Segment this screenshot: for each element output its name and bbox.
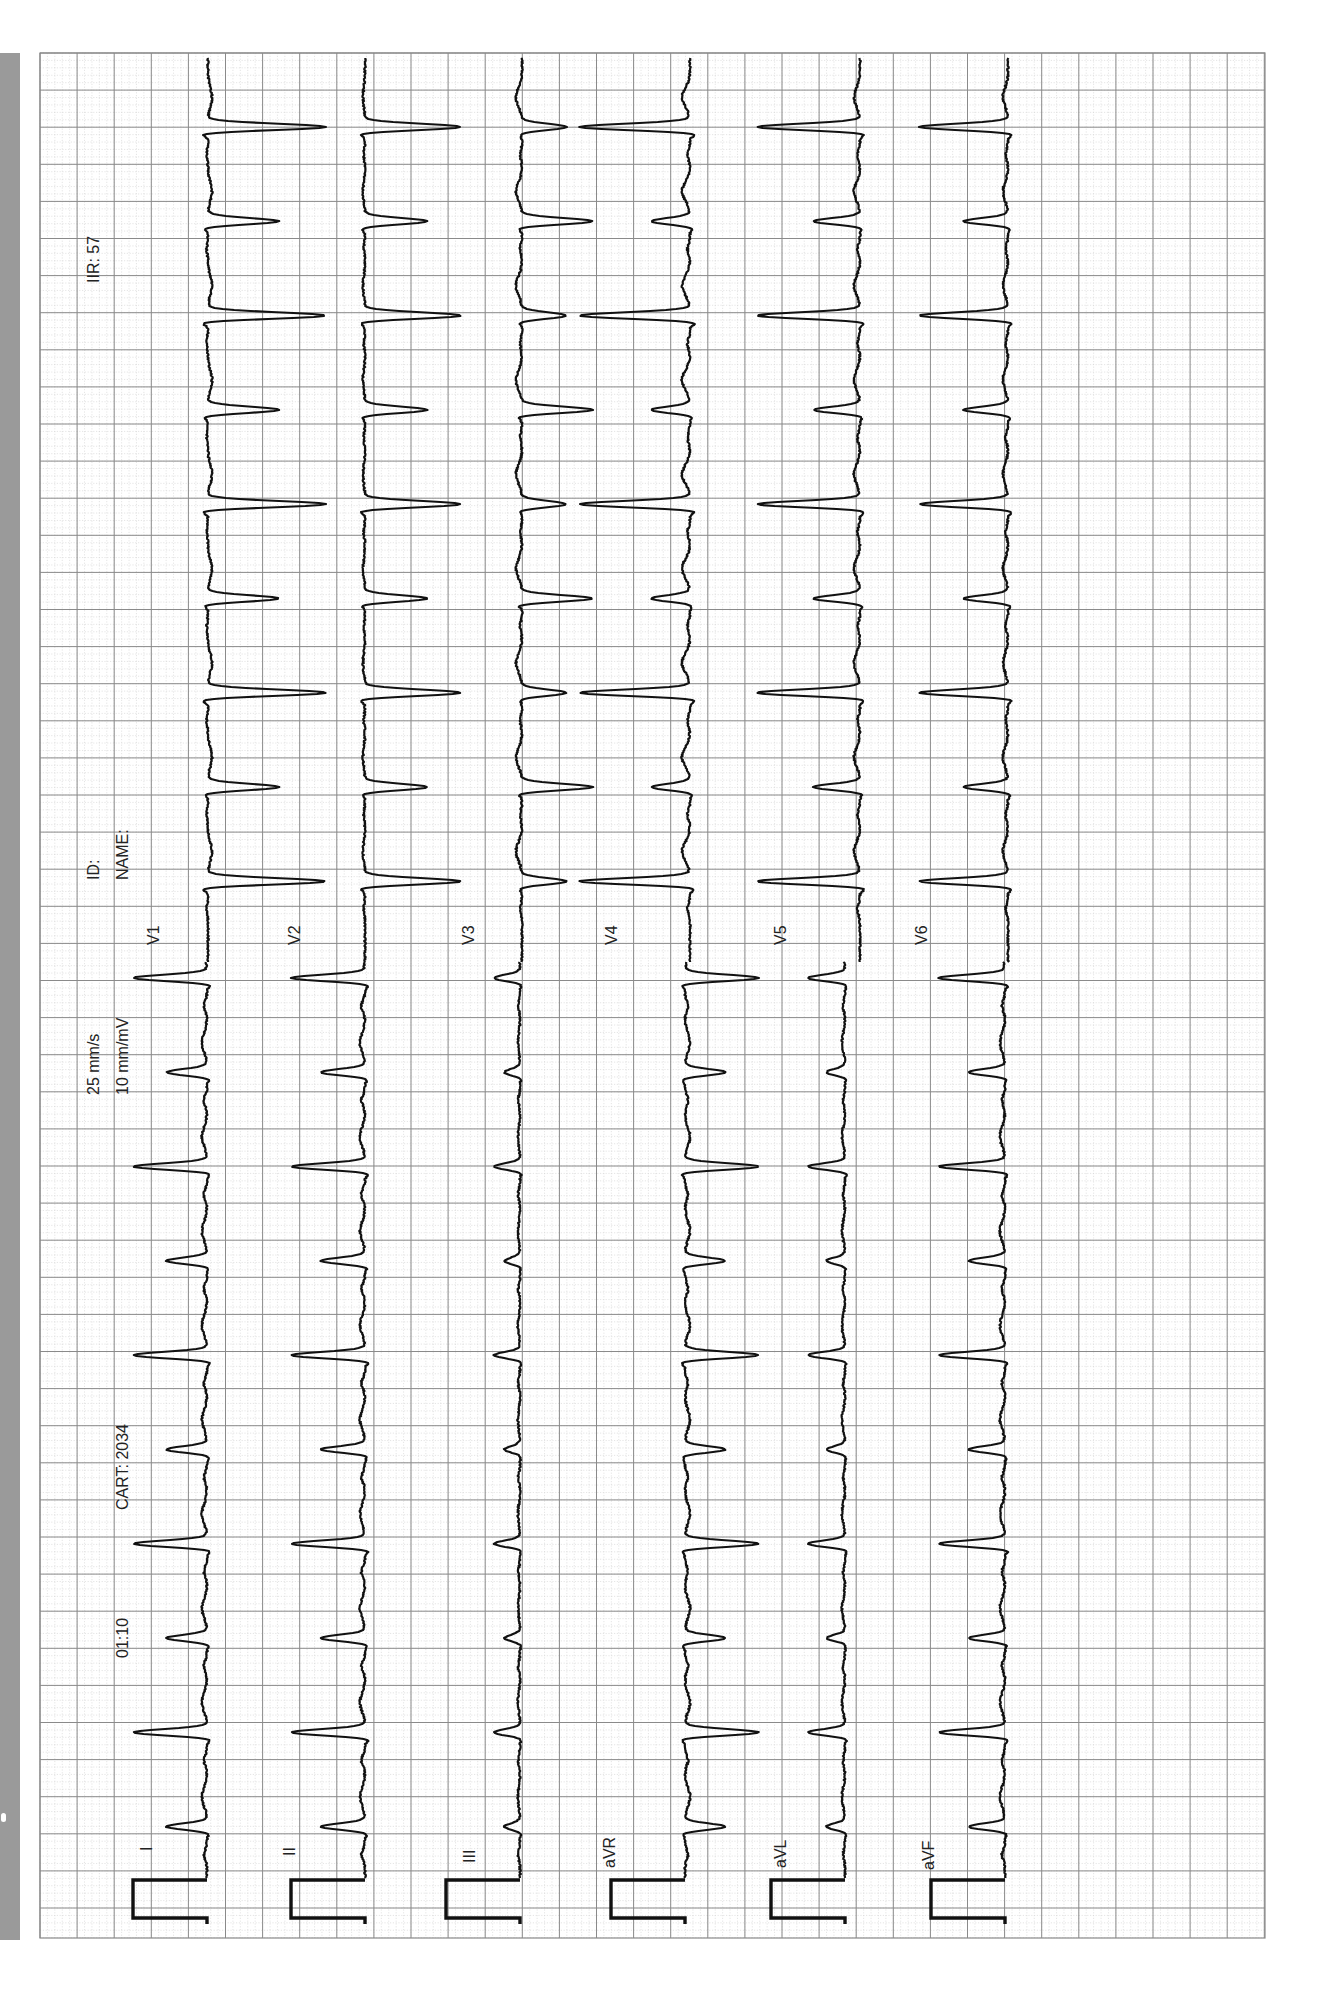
ecg-chart: IIR: 57 ID: NAME: 25 mm/s 10 mm/mV CART:… — [0, 0, 1319, 1994]
lead-label-v5: V5 — [772, 925, 789, 945]
name-label: NAME: — [114, 829, 131, 880]
lead-label-v4: V4 — [603, 925, 620, 945]
gain-label: 10 mm/mV — [114, 1017, 131, 1095]
grid-major — [40, 53, 1265, 1938]
lead-label-iii: III — [461, 1850, 478, 1863]
lead-label-avf: aVF — [920, 1840, 937, 1870]
cart-label: CART: 2034 — [114, 1424, 131, 1510]
lead-label-avl: aVL — [772, 1839, 789, 1868]
id-label: ID: — [85, 860, 102, 880]
heart-rate-label: IIR: 57 — [85, 236, 102, 283]
lead-label-i: I — [138, 1847, 155, 1851]
lead-label-ii: II — [281, 1847, 298, 1856]
lead-label-v1: V1 — [145, 925, 162, 945]
ecg-traces — [133, 58, 1012, 1924]
grid-minor — [40, 53, 1265, 1938]
paper-speed-label: 25 mm/s — [85, 1034, 102, 1095]
time-label: 01:10 — [114, 1618, 131, 1658]
lead-label-avr: aVR — [601, 1837, 618, 1868]
lead-label-v6: V6 — [913, 925, 930, 945]
lead-label-v2: V2 — [286, 925, 303, 945]
lead-label-v3: V3 — [460, 925, 477, 945]
